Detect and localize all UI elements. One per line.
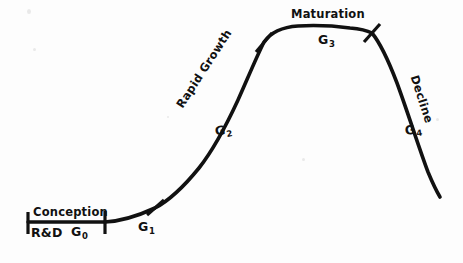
label-g2: G2 xyxy=(214,123,233,138)
tick-mark-g2-g3 xyxy=(256,33,272,52)
label-g3-letter: G xyxy=(318,32,328,47)
label-g2-letter: G xyxy=(214,122,227,139)
label-g0-subscript: 0 xyxy=(82,231,88,241)
label-conception: Conception xyxy=(33,207,108,219)
label-rd: R&D xyxy=(31,227,63,240)
label-g4-letter: G xyxy=(404,122,416,138)
label-g1-subscript: 1 xyxy=(149,226,155,236)
label-g4: G4 xyxy=(404,123,422,138)
label-g0-letter: G xyxy=(71,224,81,239)
s-curve-path xyxy=(105,26,440,222)
tick-mark-g1-g2 xyxy=(147,200,164,215)
label-g1: G1 xyxy=(138,221,155,234)
label-g1-letter: G xyxy=(138,219,148,234)
label-g0: G0 xyxy=(71,226,88,239)
label-g3-subscript: 3 xyxy=(329,39,335,49)
label-maturation: Maturation xyxy=(291,9,365,21)
s-curve-figure: Conception R&D G0 G1 Rapid Growth G2 Mat… xyxy=(0,0,463,263)
label-g3: G3 xyxy=(318,34,335,47)
label-g4-subscript: 4 xyxy=(416,128,423,139)
